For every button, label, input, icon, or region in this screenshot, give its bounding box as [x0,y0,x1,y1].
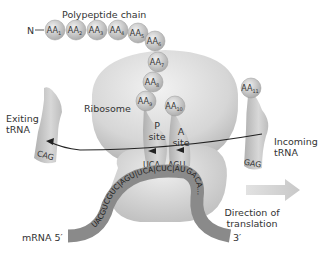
translation-diagram: AA1 AA2 AA3 AA4 AA5 AA6 AA7 AA8 AA9 AA10… [0,0,322,255]
direction-of-translation-label: Direction of translation [222,207,282,229]
ribosome-label: Ribosome [84,103,131,114]
mrna-5-prime-label: mRNA 5′ [22,232,63,243]
direction-arrow-icon [246,179,300,201]
polypeptide-chain-label: Polypeptide chain [62,9,146,20]
svg-text:GAG: GAG [243,158,262,170]
p-site-label: P site [147,120,167,142]
n-terminus-label: N [27,25,34,36]
incoming-trna-label: Incoming tRNA [274,136,318,158]
mrna-3-prime-label: 3′ [233,232,241,243]
a-site-label: A site [171,126,191,148]
exiting-trna-label: Exiting tRNA [6,113,39,135]
